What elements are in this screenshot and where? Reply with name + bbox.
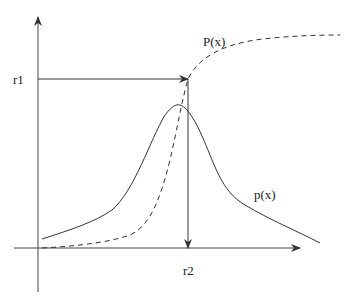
inverse-transform-diagram: r1 P(x) p(x) r2 <box>0 0 344 303</box>
pdf-curve <box>42 105 320 243</box>
cdf-label: P(x) <box>203 34 225 49</box>
r1-label: r1 <box>13 72 24 87</box>
r2-label: r2 <box>183 263 194 278</box>
pdf-label: p(x) <box>254 187 276 202</box>
cdf-curve <box>42 35 340 248</box>
